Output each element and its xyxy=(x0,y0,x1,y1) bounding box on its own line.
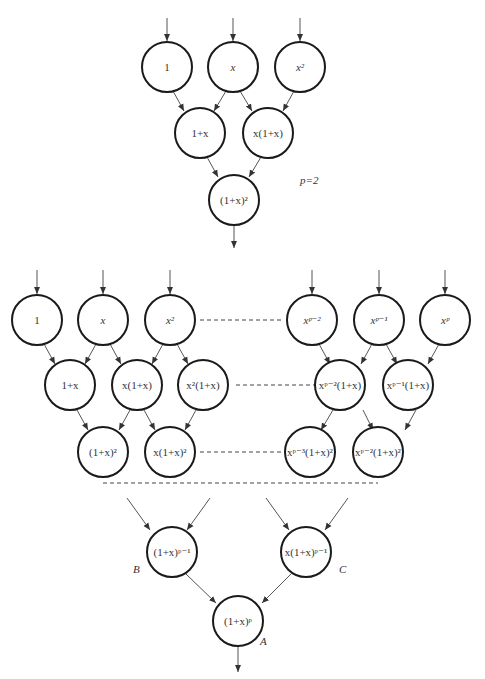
svg-text:xᵖ⁻²(1+x): xᵖ⁻²(1+x) xyxy=(319,379,362,392)
general-diagram: 1 x x² xᵖ⁻² xᵖ⁻¹ xᵖ 1+x x(1+x) x²(1+x) x… xyxy=(12,270,470,483)
svg-text:xᵖ⁻¹(1+x): xᵖ⁻¹(1+x) xyxy=(387,379,430,392)
node-r2-5: xᵖ⁻¹(1+x) xyxy=(383,360,433,410)
svg-text:x²: x² xyxy=(165,314,175,326)
svg-text:xᵖ: xᵖ xyxy=(440,314,450,326)
node-r3-1: (1+x)² xyxy=(78,427,128,477)
svg-text:(1+x)ᵖ: (1+x)ᵖ xyxy=(224,615,253,628)
node-r3-4: xᵖ⁻²(1+x)² xyxy=(353,427,403,477)
node-A: (1+x)ᵖ xyxy=(213,596,263,646)
svg-text:xᵖ⁻²: xᵖ⁻² xyxy=(302,314,321,326)
top-diagram: 1 x x² 1+x x(1+x) (1+x)² p=2 xyxy=(142,18,325,248)
node-r2-3: x²(1+x) xyxy=(178,360,228,410)
node-B: (1+x)ᵖ⁻¹ xyxy=(147,527,197,577)
node-t5: x(1+x) xyxy=(243,108,293,158)
svg-text:(1+x)ᵖ⁻¹: (1+x)ᵖ⁻¹ xyxy=(153,546,190,559)
node-r3-2: x(1+x)² xyxy=(145,427,195,477)
svg-text:xᵖ⁻¹: xᵖ⁻¹ xyxy=(369,314,387,326)
label-C: C xyxy=(339,563,347,575)
svg-text:xᵖ⁻²(1+x)²: xᵖ⁻²(1+x)² xyxy=(355,446,402,459)
node-t6: (1+x)² xyxy=(209,175,259,225)
svg-text:x(1+x): x(1+x) xyxy=(122,379,152,392)
svg-text:x(1+x)²: x(1+x)² xyxy=(153,446,187,459)
svg-text:x: x xyxy=(100,314,106,326)
node-t4: 1+x xyxy=(175,108,225,158)
node-r1-x: x xyxy=(78,295,128,345)
node-r1-1: 1 xyxy=(12,295,62,345)
svg-text:1+x: 1+x xyxy=(191,127,209,139)
label-B: B xyxy=(133,563,140,575)
node-r3-3: xᵖ⁻³(1+x)² xyxy=(285,427,335,477)
node-r2-1: 1+x xyxy=(45,360,95,410)
node-r1-x2: x² xyxy=(145,295,195,345)
node-r2-2: x(1+x) xyxy=(112,360,162,410)
svg-text:1+x: 1+x xyxy=(61,379,79,391)
svg-text:x(1+x)ᵖ⁻¹: x(1+x)ᵖ⁻¹ xyxy=(285,546,328,559)
node-r1-xp: xᵖ xyxy=(420,295,470,345)
pascal-polynomial-diagram: 1 x x² 1+x x(1+x) (1+x)² p=2 xyxy=(0,0,485,679)
svg-text:x(1+x): x(1+x) xyxy=(253,127,283,140)
node-r2-4: xᵖ⁻²(1+x) xyxy=(315,360,365,410)
node-C: x(1+x)ᵖ⁻¹ xyxy=(281,527,331,577)
svg-text:(1+x)²: (1+x)² xyxy=(220,194,249,207)
svg-text:1: 1 xyxy=(164,61,170,73)
node-r1-xp-1: xᵖ⁻¹ xyxy=(354,295,404,345)
node-t3: x² xyxy=(275,42,325,92)
p-equals-2-label: p=2 xyxy=(299,174,319,186)
node-t2: x xyxy=(208,42,258,92)
svg-text:1: 1 xyxy=(34,314,40,326)
svg-text:x: x xyxy=(230,61,236,73)
node-r1-xp-2: xᵖ⁻² xyxy=(287,295,337,345)
node-t1: 1 xyxy=(142,42,192,92)
svg-text:x²(1+x): x²(1+x) xyxy=(186,379,220,392)
bottom-diagram: (1+x)ᵖ⁻¹ x(1+x)ᵖ⁻¹ (1+x)ᵖ B C A xyxy=(127,498,348,672)
svg-text:x²: x² xyxy=(295,61,305,73)
svg-text:(1+x)²: (1+x)² xyxy=(89,446,118,459)
label-A: A xyxy=(259,635,267,647)
svg-text:xᵖ⁻³(1+x)²: xᵖ⁻³(1+x)² xyxy=(287,446,334,459)
